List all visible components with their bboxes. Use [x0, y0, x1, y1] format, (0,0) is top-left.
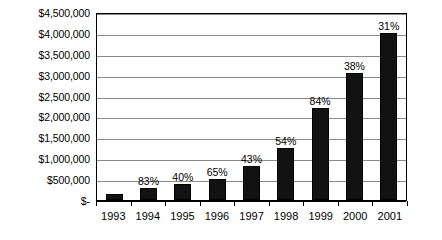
y-tick-label: $4,500,000 — [0, 8, 90, 18]
x-tick-label: 1999 — [303, 207, 338, 227]
x-tick-label: 1995 — [165, 207, 200, 227]
bar-2001[interactable] — [380, 33, 397, 200]
x-tick-label: 1994 — [131, 207, 166, 227]
bar-2000[interactable] — [346, 73, 363, 200]
y-axis: $-$500,000$1,000,000$1,500,000$2,000,000… — [0, 13, 90, 201]
x-tick-label: 2000 — [338, 207, 373, 227]
bar-slot: 83% — [131, 14, 165, 200]
bar-1993[interactable] — [106, 194, 123, 200]
y-tick-label: $3,500,000 — [0, 50, 90, 60]
bar-slot: 40% — [166, 14, 200, 200]
bar-value-label: 54% — [266, 136, 306, 147]
x-axis: 199319941995199619971998199920002001 — [96, 207, 407, 227]
bar-slot: 65% — [200, 14, 234, 200]
y-tick-label: $4,000,000 — [0, 29, 90, 39]
bar-value-label: 31% — [369, 21, 409, 32]
bars-layer: 83%40%65%43%54%84%38%31% — [97, 14, 406, 200]
x-tick — [338, 201, 339, 206]
bar-slot: 43% — [234, 14, 268, 200]
x-tick — [372, 201, 373, 206]
y-tick-label: $2,500,000 — [0, 92, 90, 102]
x-tick — [165, 201, 166, 206]
x-tick-label: 1996 — [200, 207, 235, 227]
y-tick-label: $1,000,000 — [0, 154, 90, 164]
x-tick-label: 1998 — [269, 207, 304, 227]
y-tick-label: $1,500,000 — [0, 133, 90, 143]
y-tick-label: $2,000,000 — [0, 112, 90, 122]
bar-chart: $-$500,000$1,000,000$1,500,000$2,000,000… — [0, 0, 442, 240]
bar-slot: 54% — [269, 14, 303, 200]
bar-slot: 84% — [303, 14, 337, 200]
y-tick-label: $3,000,000 — [0, 71, 90, 81]
x-tick — [269, 201, 270, 206]
x-axis-ticks — [96, 201, 407, 206]
bar-1996[interactable] — [209, 179, 226, 200]
x-tick-label: 1993 — [96, 207, 131, 227]
y-tick-label: $- — [0, 196, 90, 206]
bar-1997[interactable] — [243, 166, 260, 200]
bar-value-label: 65% — [197, 167, 237, 178]
plot-area: 83%40%65%43%54%84%38%31% — [96, 13, 407, 201]
bar-1999[interactable] — [312, 108, 329, 200]
bar-slot: 38% — [337, 14, 371, 200]
bar-value-label: 43% — [231, 154, 271, 165]
x-tick-label: 1997 — [234, 207, 269, 227]
bar-slot — [97, 14, 131, 200]
bar-1998[interactable] — [277, 148, 294, 200]
x-tick — [407, 201, 408, 206]
bar-value-label: 84% — [300, 96, 340, 107]
bar-1995[interactable] — [174, 184, 191, 200]
x-tick — [96, 201, 97, 206]
x-tick — [303, 201, 304, 206]
x-tick — [200, 201, 201, 206]
x-tick — [131, 201, 132, 206]
y-tick-label: $500,000 — [0, 175, 90, 185]
bar-value-label: 38% — [334, 61, 374, 72]
bar-slot: 31% — [372, 14, 406, 200]
bar-1994[interactable] — [140, 188, 157, 200]
x-tick-label: 2001 — [373, 207, 408, 227]
x-tick — [234, 201, 235, 206]
